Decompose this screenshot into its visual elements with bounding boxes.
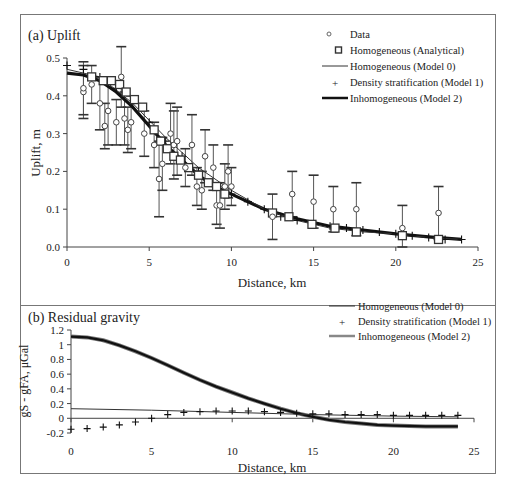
circle-marker [160,161,166,167]
y-tick-label: 0.6 [50,368,64,380]
square-marker [285,213,293,221]
x-tick-label: 5 [149,445,155,457]
x-tick-label: 5 [146,256,152,268]
x-tick-label: 20 [390,256,402,268]
circle-marker [97,101,103,107]
x-tick-label: 20 [388,445,400,457]
circle-marker [229,184,235,190]
plus-marker [374,411,381,418]
circle-marker [217,203,223,209]
plus-marker [100,424,107,431]
plus-marker [116,421,123,428]
circle-marker [105,108,111,114]
circle-marker [168,131,174,137]
model1-markers [68,407,462,432]
y-tick-label: 0.0 [46,241,60,253]
circle-marker [183,165,189,171]
plus-marker [148,415,155,422]
panel-a-legend: Data Homogeneous (Analytical) Homogeneou… [322,29,484,105]
y-tick-label: 0.4 [46,90,60,102]
circle-marker [289,191,295,197]
plus-marker [229,407,236,414]
circle-marker [189,142,195,148]
circle-marker [81,85,87,91]
square-marker [139,103,147,111]
y-tick-label: 0.2 [46,165,60,177]
square-marker [221,190,229,198]
plot-area-b: 05101520251.210.80.60.40.20-0.2 [47,324,480,457]
plus-marker [180,409,187,416]
legend-a-2: Homogeneous (Model 0) [350,61,456,73]
legend-a-1: Homogeneous (Analytical) [350,45,465,57]
legend-plus-icon: + [339,316,345,328]
circle-marker [89,82,95,88]
square-marker [195,171,203,179]
circle-marker [270,214,276,220]
plus-marker [132,418,139,425]
x-tick-label: 25 [469,445,481,457]
circle-marker [225,169,231,175]
legend-a-0: Data [350,29,370,40]
circle-marker [125,127,131,133]
y-tick-label: 0.5 [46,52,60,64]
plus-marker [63,62,71,70]
square-marker [331,224,339,232]
legend-b-1: Density stratification (Model 1) [358,316,492,328]
circle-marker [199,188,205,194]
x-tick-label: 10 [226,256,238,268]
panel-a-xlabel: Distance, km [238,275,307,290]
plus-marker [458,235,466,243]
circle-marker [400,225,406,231]
circle-marker [222,184,228,190]
square-marker [122,88,130,96]
square-marker [213,183,221,191]
x-tick-label: 25 [473,256,485,268]
y-tick-label: 0.3 [46,128,60,140]
plus-marker [342,224,350,232]
legend-a-4: Inhomogeneous (Model 2) [350,93,462,105]
circle-marker [211,165,217,171]
panel-b-title: (b) Residual gravity [28,310,140,326]
y-tick-label: 1.2 [50,324,64,336]
plus-marker [68,426,75,433]
legend-circle-icon [327,32,331,36]
plus-marker [425,234,433,242]
circle-marker [174,138,180,144]
panel-a-ylabel: Uplift, m [28,129,43,177]
circle-marker [354,206,360,212]
panel-b-legend: Homogeneous (Model 0) + Density stratifi… [329,301,492,343]
square-marker [435,235,443,243]
y-tick-label: 0.4 [50,383,64,395]
square-marker [107,77,115,85]
square-marker [150,126,158,134]
legend-plus-icon: + [332,77,338,89]
square-marker [157,137,165,145]
square-marker [308,220,316,228]
legend-a-3: Density stratification (Model 1) [350,77,484,89]
panel-b-xlabel: Distance, km [238,460,307,475]
circle-marker [118,74,124,80]
square-marker [88,73,96,81]
y-tick-label: 0.1 [46,203,60,215]
square-marker [398,232,406,240]
y-tick-label: 0.8 [50,353,64,365]
square-marker [204,179,212,187]
x-tick-label: 15 [307,445,319,457]
legend-square-icon [336,47,342,53]
plus-marker [84,425,91,432]
chart-canvas: (a) Uplift Distance, km Uplift, m Data H… [0,0,513,501]
square-marker [116,80,124,88]
x-tick-label: 0 [68,445,74,457]
legend-b-2: Inhomogeneous (Model 2) [358,331,470,343]
circle-marker [331,206,337,212]
plus-marker [261,408,268,415]
plus-marker [164,411,171,418]
y-tick-label: -0.2 [47,427,64,439]
x-tick-label: 10 [227,445,239,457]
plus-marker [342,411,349,418]
square-marker [163,145,171,153]
plus-marker [408,232,416,240]
y-tick-label: 1 [59,339,65,351]
y-tick-label: 0.2 [50,398,64,410]
square-marker [176,156,184,164]
